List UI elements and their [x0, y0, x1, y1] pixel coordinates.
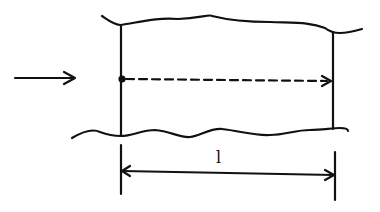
path-start-dot: [118, 75, 125, 82]
incoming-arrow: [15, 72, 75, 84]
top-boundary: [102, 15, 362, 33]
dashed-path: [126, 79, 327, 81]
channel-diagram: [0, 0, 380, 212]
dimension-label: l: [216, 150, 221, 166]
dimension-line: [122, 171, 334, 175]
bottom-boundary: [72, 128, 348, 138]
